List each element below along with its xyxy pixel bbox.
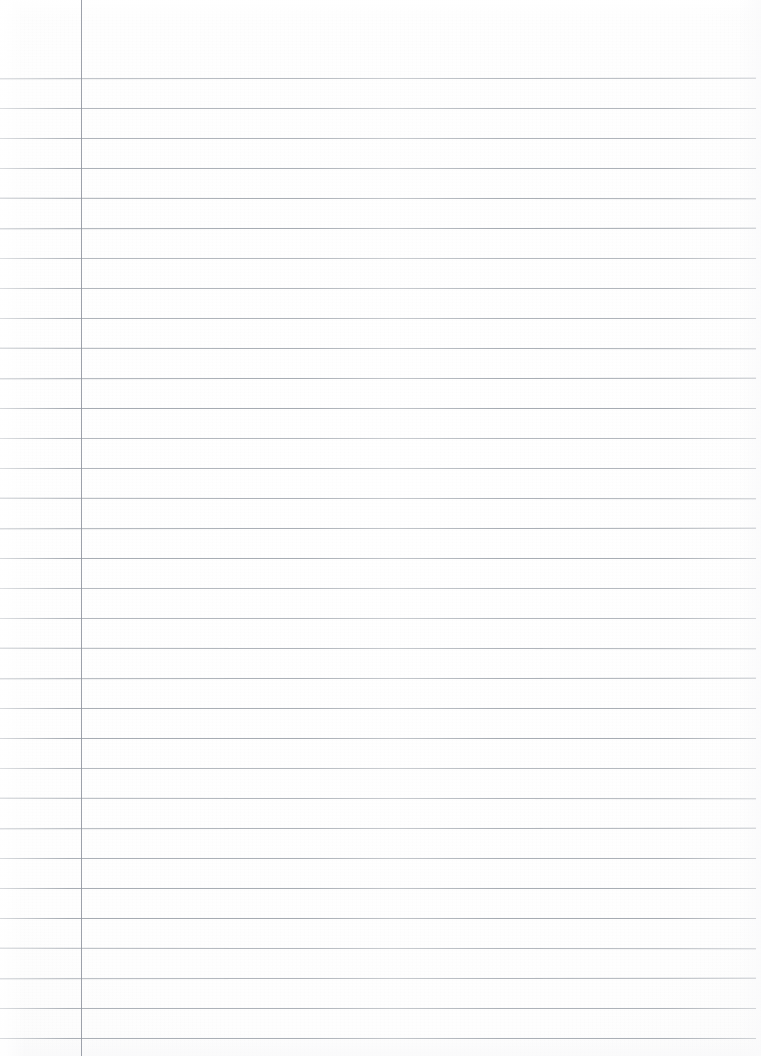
notebook-page [0,0,761,1056]
margin-rule-layer [0,0,761,1056]
margin-rule [81,0,82,1056]
